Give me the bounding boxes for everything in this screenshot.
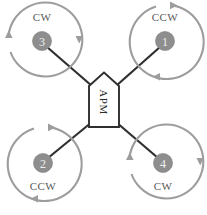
motor-number-2: 2 bbox=[40, 157, 46, 171]
rotation-label-motor-1: CCW bbox=[152, 11, 178, 23]
arrow-head-up-motor-3 bbox=[5, 31, 13, 39]
apm-label: APM bbox=[98, 89, 110, 114]
arrow-head-up-motor-4 bbox=[126, 153, 134, 161]
motor-number-3: 3 bbox=[39, 35, 45, 49]
motor-group-3: 3 bbox=[33, 32, 52, 51]
arrow-head-left-motor-1 bbox=[152, 73, 160, 81]
motor-group-1: 1 bbox=[156, 32, 175, 51]
rotation-label-motor-3: CW bbox=[33, 11, 52, 23]
diagram-canvas: APM 3 1 2 4 CW CCW CCW CW bbox=[0, 0, 207, 215]
arrow-head-right-motor-2 bbox=[48, 124, 56, 132]
rotation-label-motor-2: CCW bbox=[30, 180, 56, 192]
motor-group-2: 2 bbox=[34, 154, 53, 173]
motor-number-4: 4 bbox=[160, 157, 166, 171]
rotation-label-motor-4: CW bbox=[154, 180, 173, 192]
arrow-head-left-motor-2 bbox=[30, 195, 38, 203]
quadcopter-motor-diagram: APM 3 1 2 4 CW CCW CCW CW bbox=[0, 0, 207, 215]
apm-controller-body: APM bbox=[89, 73, 119, 128]
motor-number-1: 1 bbox=[162, 35, 168, 49]
arrow-head-right-motor-1 bbox=[170, 2, 178, 10]
motor-group-4: 4 bbox=[154, 154, 173, 173]
